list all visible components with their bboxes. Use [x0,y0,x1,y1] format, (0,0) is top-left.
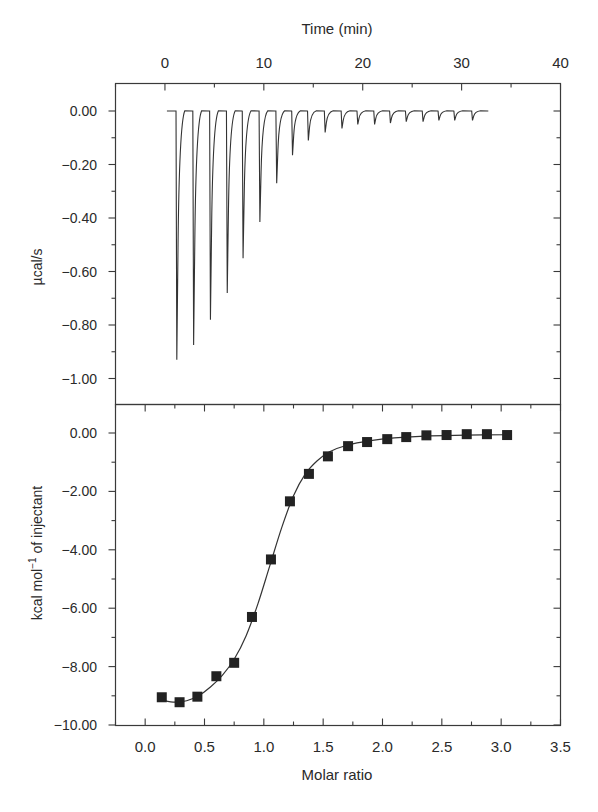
bottom-y-tick-label: −4.00 [62,542,98,558]
data-point-square [482,429,492,439]
thermogram-panel: Time (min) 010203040 0.00−0.20−0.40−0.60… [29,20,569,405]
bottom-x-axis-label: Molar ratio [302,766,373,783]
bottom-x-tick-label: 1.5 [313,738,334,755]
data-point-square [211,671,221,681]
data-point-square [285,496,295,506]
data-point-square [442,430,452,440]
data-point-square [502,430,512,440]
top-y-tick-label: −1.00 [62,371,98,387]
top-x-axis-ticks: 010203040 [116,54,569,91]
data-markers [157,429,512,707]
top-x-axis-label: Time (min) [301,20,372,37]
data-point-square [462,429,472,439]
data-point-square [266,554,276,564]
bottom-x-tick-label: 0.0 [135,738,156,755]
bottom-x-tick-label: 2.5 [431,738,452,755]
top-y-axis-label: µcal/s [29,249,45,286]
data-point-square [247,612,257,622]
top-y-tick-label: −0.40 [62,210,98,226]
data-point-square [192,692,202,702]
top-y-tick-label: −0.80 [62,317,98,333]
itc-figure: Time (min) 010203040 0.00−0.20−0.40−0.60… [0,0,598,812]
thermogram-trace [167,111,488,360]
bottom-y-tick-label: −10.00 [54,717,97,733]
data-point-square [229,658,239,668]
top-y-axis-ticks: 0.00−0.20−0.40−0.60−0.80−1.00 [62,103,561,387]
bottom-y-axis-label: kcal mol−1 of injectant [27,486,45,620]
top-plot-frame [116,84,561,405]
data-point-square [421,430,431,440]
data-point-square [175,697,185,707]
data-point-square [343,441,353,451]
data-point-square [362,437,372,447]
data-point-square [382,434,392,444]
bottom-plot-frame [116,405,561,726]
top-x-tick-label: 30 [453,54,470,71]
bottom-y-tick-label: 0.00 [70,425,97,441]
data-point-square [401,432,411,442]
fit-curve [162,435,507,702]
bottom-x-tick-label: 2.0 [372,738,393,755]
top-y-tick-label: 0.00 [70,103,97,119]
data-point-square [323,451,333,461]
top-x-tick-label: 0 [161,54,169,71]
bottom-x-tick-label: 3.5 [550,738,571,755]
data-point-square [304,469,314,479]
isotherm-panel: 0.00.51.01.52.02.53.03.5 0.00−2.00−4.00−… [27,405,571,784]
bottom-x-tick-label: 0.5 [194,738,215,755]
top-y-tick-label: −0.20 [62,157,98,173]
bottom-y-tick-label: −8.00 [62,659,98,675]
top-y-tick-label: −0.60 [62,264,98,280]
bottom-x-tick-label: 1.0 [253,738,274,755]
bottom-x-tick-label: 3.0 [491,738,512,755]
bottom-y-tick-label: −6.00 [62,600,98,616]
top-x-tick-label: 10 [255,54,272,71]
bottom-y-tick-label: −2.00 [62,483,98,499]
top-x-tick-label: 20 [354,54,371,71]
top-x-tick-label: 40 [552,54,569,71]
data-point-square [157,692,167,702]
